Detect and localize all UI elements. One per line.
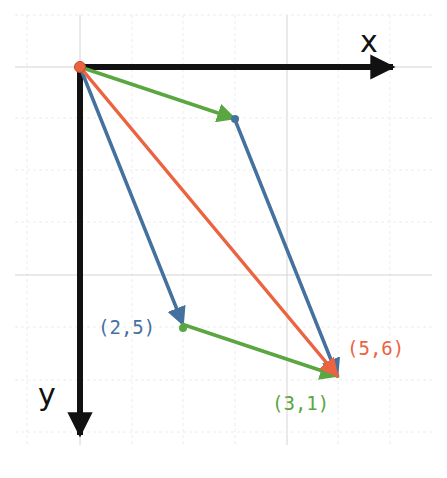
vector-b-arrow xyxy=(235,119,338,377)
point-labels: (2,5) (5,6) (3,1) xyxy=(98,316,404,414)
vector-addition-diagram: x y (2,5) (5,6) (3,1) xyxy=(0,0,447,478)
point-2-5-dot xyxy=(179,324,187,332)
label-5-6: (5,6) xyxy=(347,337,404,359)
origin-dot xyxy=(75,62,86,73)
label-2-5: (2,5) xyxy=(98,316,155,338)
y-axis-label: y xyxy=(38,377,56,412)
label-3-1: (3,1) xyxy=(272,392,329,414)
x-axis-label: x xyxy=(360,24,378,59)
x-axis: x xyxy=(80,24,393,67)
point-3-1-dot xyxy=(231,115,239,123)
